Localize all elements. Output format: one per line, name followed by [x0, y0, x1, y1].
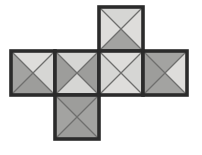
net-face-front	[55, 51, 99, 95]
net-face-bottom	[55, 95, 99, 139]
net-face-back	[143, 51, 187, 95]
net-face-top	[99, 7, 143, 51]
figure-canvas	[0, 0, 202, 155]
cube-net-diagram	[0, 0, 202, 155]
net-face-left	[11, 51, 55, 95]
net-face-right	[99, 51, 143, 95]
